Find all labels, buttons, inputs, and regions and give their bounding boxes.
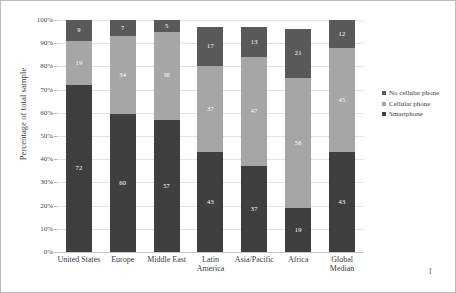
bar-value-label: 72 <box>75 165 82 172</box>
y-tick-label: 30% <box>40 178 53 186</box>
bar-value-label: 12 <box>339 31 346 38</box>
y-axis-title: Percentage of total sample <box>18 29 28 199</box>
y-tick-label: 0% <box>44 248 53 256</box>
bar-column[interactable]: 53857 <box>154 20 180 252</box>
legend-item[interactable]: No cellular phone <box>382 89 439 97</box>
bar-segment[interactable]: 56 <box>285 78 311 208</box>
bar-value-label: 45 <box>339 97 346 104</box>
legend-item[interactable]: Cellular phone <box>382 100 439 108</box>
bar-segment[interactable]: 43 <box>329 152 355 252</box>
y-tick-label: 60% <box>40 109 53 117</box>
bar-column[interactable]: 173743 <box>197 20 223 252</box>
y-tick-label: 100% <box>37 16 53 24</box>
bar-column[interactable]: 73460 <box>110 20 136 252</box>
bar-value-label: 56 <box>295 140 302 147</box>
x-axis-label: Latin America <box>189 255 233 273</box>
bar-segment[interactable]: 9 <box>66 20 92 41</box>
legend-swatch-icon <box>382 102 386 106</box>
legend-swatch-icon <box>382 112 386 116</box>
legend-label: Smartphone <box>389 110 423 118</box>
bar-column[interactable]: 91972 <box>66 20 92 252</box>
x-axis-label: Asia/Pacific <box>232 255 276 273</box>
chart-figure: Percentage of total sample 100%90%80%70%… <box>0 0 456 293</box>
bar-segment[interactable]: 37 <box>241 166 267 252</box>
bar-segment[interactable]: 60 <box>110 114 136 252</box>
bar-segment[interactable]: 45 <box>329 48 355 152</box>
bar-segment[interactable]: 13 <box>241 27 267 57</box>
plot-area: 100%90%80%70%60%50%40%30%20%10%0% 919727… <box>57 20 364 252</box>
y-tick-mark <box>54 252 57 253</box>
x-axis-label: United States <box>57 255 101 273</box>
legend-label: No cellular phone <box>389 89 439 97</box>
bar-value-label: 13 <box>251 39 258 46</box>
x-axis-label: Middle East <box>145 255 189 273</box>
x-axis-label: Africa <box>276 255 320 273</box>
bar-value-label: 38 <box>163 72 170 79</box>
bar-segment[interactable]: 12 <box>329 20 355 48</box>
bar-value-label: 43 <box>207 199 214 206</box>
y-tick-label: 90% <box>40 39 53 47</box>
corner-mark: I <box>429 267 432 276</box>
bar-segment[interactable]: 37 <box>197 66 223 152</box>
bar-value-label: 19 <box>75 60 82 67</box>
bar-value-label: 47 <box>251 108 258 115</box>
bar-value-label: 60 <box>119 180 126 187</box>
bar-segment[interactable]: 19 <box>285 208 311 252</box>
bar-column[interactable]: 124543 <box>329 20 355 252</box>
bar-value-label: 34 <box>119 72 126 79</box>
legend-item[interactable]: Smartphone <box>382 110 439 118</box>
y-tick-label: 80% <box>40 62 53 70</box>
legend-label: Cellular phone <box>389 100 430 108</box>
legend: No cellular phoneCellular phoneSmartphon… <box>382 89 439 121</box>
bar-value-label: 19 <box>295 227 302 234</box>
y-tick-label: 50% <box>40 132 53 140</box>
y-tick-label: 10% <box>40 225 53 233</box>
bar-segment[interactable]: 21 <box>285 29 311 78</box>
legend-swatch-icon <box>382 91 386 95</box>
bar-value-label: 43 <box>339 199 346 206</box>
y-tick-label: 70% <box>40 86 53 94</box>
bar-value-label: 9 <box>77 27 80 34</box>
gridline <box>57 252 364 253</box>
bar-segment[interactable]: 5 <box>154 20 180 32</box>
bar-segment[interactable]: 17 <box>197 27 223 66</box>
bar-value-label: 17 <box>207 43 214 50</box>
bar-column[interactable]: 215619 <box>285 20 311 252</box>
x-axis-label: Europe <box>101 255 145 273</box>
bar-series-group: 919727346053857173743134737215619124543 <box>57 20 364 252</box>
bar-segment[interactable]: 34 <box>110 36 136 114</box>
bar-segment[interactable]: 19 <box>66 41 92 85</box>
bar-value-label: 37 <box>207 106 214 113</box>
bar-value-label: 21 <box>295 50 302 57</box>
bar-segment[interactable]: 38 <box>154 32 180 120</box>
y-tick-label: 40% <box>40 155 53 163</box>
bar-segment[interactable]: 43 <box>197 152 223 252</box>
y-tick-label: 20% <box>40 202 53 210</box>
x-axis-labels: United StatesEuropeMiddle EastLatin Amer… <box>57 255 364 273</box>
bar-value-label: 5 <box>165 23 168 30</box>
bar-value-label: 37 <box>251 206 258 213</box>
bar-segment[interactable]: 7 <box>110 20 136 36</box>
x-axis-label: Global Median <box>320 255 364 273</box>
bar-segment[interactable]: 72 <box>66 85 92 252</box>
bar-value-label: 57 <box>163 183 170 190</box>
bar-segment[interactable]: 57 <box>154 120 180 252</box>
bar-value-label: 7 <box>121 25 124 32</box>
bar-segment[interactable]: 47 <box>241 57 267 166</box>
bar-column[interactable]: 134737 <box>241 20 267 252</box>
